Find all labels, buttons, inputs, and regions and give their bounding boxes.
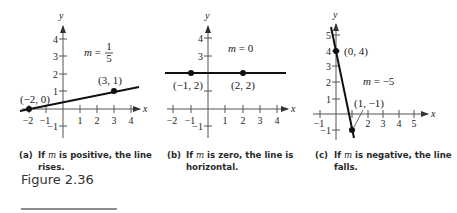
tick-label: −2 xyxy=(167,115,178,126)
svg-text:1: 1 xyxy=(106,40,112,52)
tick-label: −1 xyxy=(192,121,203,132)
tick-label: 2 xyxy=(95,115,100,126)
x-axis-label: x xyxy=(142,103,148,114)
point-label: (−1, 2) xyxy=(173,79,203,92)
tick-label: 1 xyxy=(223,115,228,126)
tick-label: 4 xyxy=(275,115,280,126)
tick-label: 1 xyxy=(326,94,331,105)
tick-label: 2 xyxy=(366,118,371,129)
figure-2-36: x y −2 −1 1 2 3 4 −1 1 2 3 4 xyxy=(0,0,457,213)
graph-b: x y −2 −1 1 2 3 4 −1 3 4 (−1, 2) (2, 2) … xyxy=(165,10,296,138)
tick-label: 2 xyxy=(53,69,58,80)
y-axis-label: y xyxy=(332,9,338,20)
tick-label: 5 xyxy=(326,30,331,41)
tick-label: 5 xyxy=(412,118,417,129)
tick-label: 3 xyxy=(326,61,331,72)
tick-label: 4 xyxy=(397,118,402,129)
tick-label: 3 xyxy=(381,118,386,129)
graph-c: x y −1 2 3 4 5 −1 1 2 3 4 5 (0, 4) xyxy=(313,9,436,140)
tick-label: 1 xyxy=(53,86,58,97)
point-c2 xyxy=(349,127,355,133)
svg-text:5: 5 xyxy=(106,52,112,64)
point-label: (2, 2) xyxy=(231,79,255,92)
tick-label: −2 xyxy=(23,115,34,126)
tick-label: 4 xyxy=(129,115,134,126)
caption-tag: (a) xyxy=(19,149,33,161)
y-axis-label: y xyxy=(58,10,64,21)
figure-label: Figure 2.36 xyxy=(21,172,94,187)
svg-text:m =: m = xyxy=(84,46,101,58)
tick-label: 1 xyxy=(78,115,83,126)
y-axis-label: y xyxy=(204,10,210,21)
tick-label: 4 xyxy=(53,34,58,45)
tick-label: −1 xyxy=(320,125,331,136)
x-axis-label: x xyxy=(290,103,296,114)
tick-label: 4 xyxy=(198,33,203,44)
point-b2 xyxy=(240,70,246,76)
graph-a: x y −2 −1 1 2 3 4 −1 1 2 3 4 xyxy=(20,10,148,138)
tick-label: 3 xyxy=(258,115,263,126)
point-label: (0, 4) xyxy=(344,45,368,58)
point-a1 xyxy=(26,106,32,112)
leader-line xyxy=(354,110,363,127)
tick-label: 3 xyxy=(53,51,58,62)
tick-label: −1 xyxy=(47,121,58,132)
divider-rule xyxy=(21,208,117,210)
point-label: (3, 1) xyxy=(98,74,122,87)
point-label: (1, −1) xyxy=(354,97,384,110)
slope-label: m = −5 xyxy=(363,75,395,87)
tick-label: 2 xyxy=(326,77,331,88)
point-c1 xyxy=(333,48,339,54)
caption-tag: (b) xyxy=(167,149,181,161)
tick-label: 4 xyxy=(326,46,331,57)
tick-label: 3 xyxy=(112,115,117,126)
tick-label: 3 xyxy=(198,51,203,62)
slope-label: m = 1 5 xyxy=(84,40,113,64)
point-b1 xyxy=(188,70,194,76)
caption-b: (b) If m is zero, the line ishorizontal. xyxy=(167,149,307,175)
x-axis-label: x xyxy=(430,108,436,119)
slope-label: m = 0 xyxy=(228,42,254,54)
tick-label: 2 xyxy=(241,115,246,126)
caption-tag: (c) xyxy=(315,149,328,161)
point-label: (−2, 0) xyxy=(20,93,50,106)
caption-c: (c) If m is negative, the linefalls. xyxy=(315,149,457,175)
point-a2 xyxy=(111,88,117,94)
